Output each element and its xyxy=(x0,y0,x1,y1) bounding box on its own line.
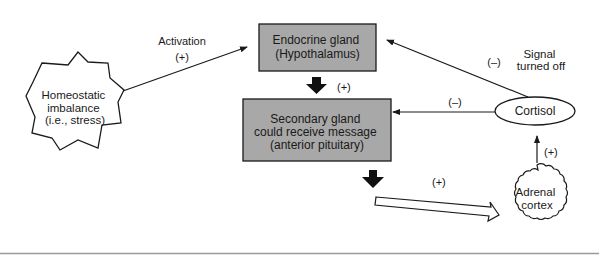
stress-node: Homeostatic imbalance (i.e., stress) xyxy=(26,52,124,150)
starburst-shape xyxy=(26,52,124,150)
stress-line-1: Homeostatic xyxy=(41,89,105,101)
endocrine-line-1: Endocrine gland xyxy=(272,33,359,47)
stress-line-3: (i.e., stress) xyxy=(45,114,105,126)
cortisol-label: Cortisol xyxy=(515,104,556,118)
signal-off-line-1: Signal xyxy=(523,48,555,60)
svg-text:Signal turned off: Signal turned off xyxy=(517,48,566,72)
secondary-line-2: could receive message xyxy=(254,125,377,139)
adrenal-cortex-node: Adrenal cortex xyxy=(515,164,568,220)
svg-text:Endocrine gland (Hypotha: Endocrine gland (Hypothalamus) xyxy=(272,33,362,61)
endo-to-secondary-sign: (+) xyxy=(337,81,351,93)
thick-down-arrow-2 xyxy=(362,170,384,188)
svg-text:Homeostatic imbalance: Homeostatic imbalance (i.e., stress) xyxy=(41,89,108,126)
adrenal-line-1: Adrenal xyxy=(516,186,556,198)
hollow-arrow-to-adrenal xyxy=(375,197,499,221)
cortisol-to-endocrine-sign: (–) xyxy=(487,56,500,68)
signal-off-line-2: turned off xyxy=(517,60,566,72)
secondary-to-adrenal-sign: (+) xyxy=(432,176,446,188)
adrenal-to-cortisol-sign: (+) xyxy=(544,146,558,158)
secondary-line-1: Secondary gland xyxy=(270,112,360,126)
cortisol-to-secondary-sign: (–) xyxy=(448,96,461,108)
secondary-gland-node: Secondary gland could receive message (a… xyxy=(243,99,391,161)
cortisol-node: Cortisol xyxy=(495,97,575,125)
svg-text:Secondary gland could re: Secondary gland could receive message (a… xyxy=(254,112,380,152)
adrenal-line-2: cortex xyxy=(521,199,553,211)
svg-text:Adrenal cortex: Adrenal cortex xyxy=(516,186,559,211)
thick-down-arrow-1 xyxy=(306,77,327,94)
endocrine-gland-node: Endocrine gland (Hypothalamus) xyxy=(259,24,376,71)
feedback-diagram: Homeostatic imbalance (i.e., stress) Act… xyxy=(0,0,599,255)
cortisol-to-endocrine-arrow xyxy=(387,40,528,97)
secondary-line-3: (anterior pituitary) xyxy=(270,138,364,152)
activation-label: Activation xyxy=(158,35,206,47)
stress-line-2: imbalance xyxy=(47,102,99,114)
endocrine-line-2: (Hypothalamus) xyxy=(275,47,360,61)
activation-sign: (+) xyxy=(175,51,189,63)
